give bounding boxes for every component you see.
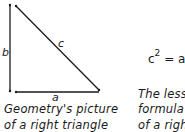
label-c: c [58,38,64,49]
pythagorean-formula: c2 = a [148,50,185,66]
caption-left-line-1: Geometry's picture [4,101,118,117]
caption-right-line-1: The less c [138,86,185,102]
right-triangle-figure [0,0,110,100]
caption-left-line-2: of a right triangle [4,117,108,132]
formula-rest: = a [160,52,185,66]
caption-right-line-2: formula f [138,101,185,117]
formula-base: c [148,52,155,66]
formula-exponent: 2 [155,48,161,58]
label-b: b [2,47,9,58]
caption-right-line-3: of a right [138,117,185,132]
